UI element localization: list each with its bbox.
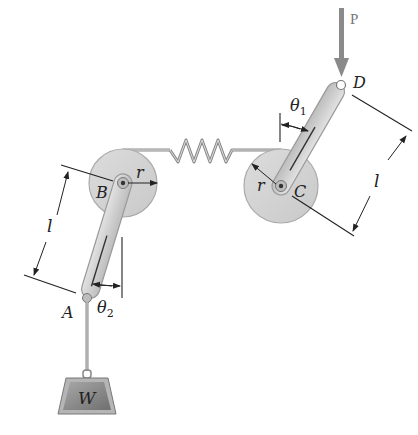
force-label: P	[350, 11, 358, 27]
theta2-label: θ2	[97, 298, 114, 320]
pin-b	[118, 178, 129, 189]
pin-d	[337, 81, 346, 90]
radius-c-label: r	[257, 176, 266, 195]
point-c-label: C	[294, 182, 306, 201]
pin-c	[276, 181, 287, 192]
length-right-label: l	[374, 171, 379, 191]
point-a-label: A	[60, 303, 74, 322]
pin-a	[83, 294, 92, 303]
theta1-label: θ1	[290, 96, 307, 118]
radius-b-label: r	[136, 163, 145, 182]
rope	[83, 302, 91, 378]
weight-label: W	[78, 388, 97, 408]
point-d-label: D	[352, 73, 366, 92]
mechanism-diagram: W P l l θ1 θ2 A B C D r r	[0, 0, 418, 435]
point-b-label: B	[95, 183, 108, 202]
force-p-arrow	[334, 8, 349, 77]
length-left-label: l	[47, 216, 52, 236]
